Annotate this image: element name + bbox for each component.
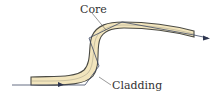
ray-exit-arrow-icon <box>203 36 210 41</box>
fiber-cladding-band <box>31 22 194 85</box>
cladding-label: Cladding <box>112 80 162 91</box>
fiber-core-boundary <box>32 25 194 81</box>
optical-fiber-diagram <box>0 0 221 99</box>
cladding-leader-line <box>99 77 111 85</box>
core-label: Core <box>80 4 107 15</box>
